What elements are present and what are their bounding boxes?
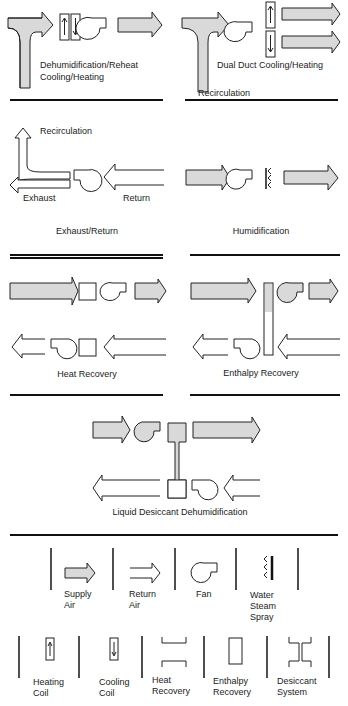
heat-recovery-box <box>79 339 96 356</box>
supply-air-arrow <box>10 277 78 305</box>
supply-air-arrow <box>309 279 338 303</box>
legend-heating-coil-label: HeatingCoil <box>33 677 64 699</box>
legend-desiccant-system-label: DesiccantSystem <box>277 676 317 698</box>
return-air-arrow <box>104 164 164 190</box>
supply-air-arrow <box>118 12 162 37</box>
legend-enthalpy-recovery-label: EnthalpyRecovery <box>213 676 251 698</box>
return-air-arrow <box>278 334 340 359</box>
legend-return-air-label: ReturnAir <box>129 589 156 611</box>
return-air-arrow <box>224 475 260 501</box>
fan-icon <box>74 170 102 192</box>
fan-icon <box>224 22 252 42</box>
supply-air-arrow <box>193 417 260 443</box>
legend-cooling-coil-label: CoolingCoil <box>99 677 130 699</box>
fan-icon <box>192 480 218 500</box>
fan-icon <box>234 339 260 359</box>
caption-dehumid-reheat-2: Cooling/Heating <box>40 72 104 83</box>
return-air-arrow <box>130 563 160 583</box>
fan-icon <box>76 17 106 39</box>
exhaust-arrow <box>193 334 228 359</box>
supply-air-arrow <box>284 165 338 190</box>
panel-humidification <box>186 165 338 190</box>
panel-dehumid-reheat <box>8 12 163 100</box>
caption-humidification: Humidification <box>174 226 348 237</box>
heat-recovery-box <box>79 283 96 300</box>
return-air-arrow <box>104 335 166 359</box>
legend-heat-recovery-label: HeatRecovery <box>152 675 190 697</box>
caption-dehumid-reheat-1: Dehumidification/Reheat <box>40 60 138 71</box>
legend-supply-air-label: SupplyAir <box>64 589 92 611</box>
caption-dual-duct: Dual Duct Cooling/Heating <box>217 60 323 71</box>
caption-enthalpy-recovery: Enthalpy Recovery <box>174 368 348 379</box>
legend-water-steam-spray-label: WaterSteamSpray <box>250 590 276 623</box>
hvac-symbols-diagram: .s{fill:#d9d9d9;stroke:#222;stroke-width… <box>0 0 348 706</box>
exhaust-arrow <box>93 475 160 501</box>
supply-air-arrow <box>93 416 130 443</box>
caption-liquid-desiccant: Liquid Desiccant Dehumidification <box>60 507 300 518</box>
supply-air-arrow <box>191 278 256 303</box>
supply-air-arrow <box>135 279 166 303</box>
caption-exhaust-return: Exhaust/Return <box>0 226 174 237</box>
fan-icon <box>277 283 303 303</box>
fan-icon <box>191 563 217 583</box>
caption-heat-recovery: Heat Recovery <box>0 369 174 380</box>
desiccant-system-icon <box>289 637 311 667</box>
legend-row-2 <box>19 636 329 678</box>
water-steam-spray-icon <box>264 556 267 578</box>
label-return: Return <box>123 193 150 204</box>
water-steam-spray-icon <box>268 168 271 188</box>
label-recirculation: Recirculation <box>198 88 250 99</box>
fan-icon <box>134 422 160 442</box>
legend-fan-label: Fan <box>196 589 212 600</box>
supply-air-arrow-top <box>282 3 340 25</box>
recirc-duct-bend <box>182 12 229 92</box>
supply-air-arrow <box>186 165 230 190</box>
enthalpy-recovery-icon <box>229 638 242 664</box>
label-exhaust: Exhaust <box>23 193 56 204</box>
fan-icon <box>100 283 126 301</box>
supply-air-arrow-bottom <box>282 31 340 53</box>
fan-icon <box>226 169 252 189</box>
exhaust-arrow <box>12 334 45 358</box>
panel-dual-duct <box>182 2 340 100</box>
fan-icon <box>51 339 77 359</box>
supply-air-arrow <box>65 563 95 583</box>
label-recirculation: Recirculation <box>40 126 92 137</box>
legend-row-1 <box>51 548 298 590</box>
heat-recovery-icon <box>162 637 186 667</box>
